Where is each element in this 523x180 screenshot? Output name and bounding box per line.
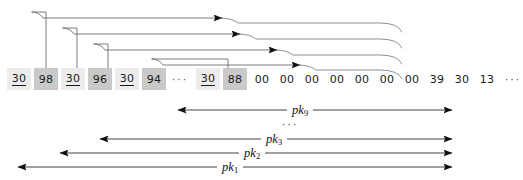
memory-cell: 13	[475, 68, 499, 90]
pk-range-label: pk1	[217, 160, 243, 175]
pk-range-label: pk9	[287, 103, 313, 118]
pk-label-subscript: 3	[278, 137, 282, 147]
pk-label-base: pk	[244, 146, 256, 160]
pk-label-subscript: 2	[256, 151, 260, 161]
pk-label-base: pk	[292, 103, 304, 117]
pk-label-base: pk	[266, 132, 278, 146]
pk-range-ellipsis: ···	[278, 118, 303, 131]
pk-label-subscript: 1	[234, 165, 238, 175]
pk-label-subscript: 9	[304, 108, 308, 118]
pk-range-label: pk2	[239, 146, 265, 161]
memory-ellipsis: ···	[500, 68, 523, 90]
pk-range-label: pk3	[261, 132, 287, 147]
memory-cell-value: 13	[480, 74, 494, 85]
pk-label-base: pk	[222, 160, 234, 174]
